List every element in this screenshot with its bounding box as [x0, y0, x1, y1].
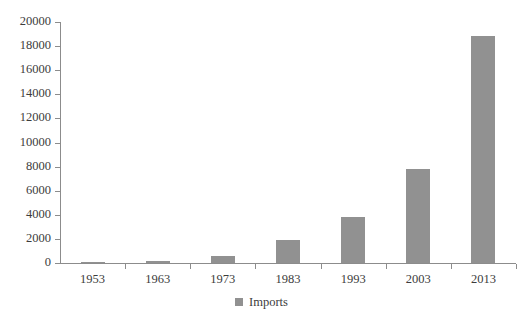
y-axis-tick-label: 12000 — [20, 109, 51, 126]
y-axis-tick-label: 8000 — [26, 158, 51, 175]
y-axis-tick-label: 0 — [45, 254, 51, 271]
bar-2003 — [406, 169, 430, 263]
bar-2013 — [471, 36, 495, 263]
x-axis-tick-mark — [516, 264, 517, 269]
x-axis-tick-label: 1993 — [321, 271, 386, 288]
bar-1963 — [146, 261, 170, 263]
y-axis-tick-label: 18000 — [20, 37, 51, 54]
x-axis-tick-label: 1983 — [255, 271, 320, 288]
x-axis-tick-mark — [125, 264, 126, 269]
y-axis-tick-label: 14000 — [20, 85, 51, 102]
bar-1983 — [276, 240, 300, 263]
y-axis-tick-label: 10000 — [20, 134, 51, 151]
chart-legend: Imports — [0, 294, 523, 310]
x-axis-tick-label: 2013 — [451, 271, 516, 288]
legend-label-imports: Imports — [249, 294, 288, 310]
y-axis-tick-mark — [55, 263, 60, 264]
y-axis-tick-label: 16000 — [20, 61, 51, 78]
x-axis-tick-label: 1963 — [125, 271, 190, 288]
y-axis-tick-label: 2000 — [26, 230, 51, 247]
x-axis-tick-label: 1953 — [60, 271, 125, 288]
bar-chart: 0200040006000800010000120001400016000180… — [0, 0, 523, 322]
bar-1993 — [341, 217, 365, 263]
x-axis-line — [60, 263, 516, 264]
x-axis-tick-label: 2003 — [386, 271, 451, 288]
y-axis-tick-label: 4000 — [26, 206, 51, 223]
x-axis-tick-mark — [451, 264, 452, 269]
bar-1953 — [81, 262, 105, 264]
x-axis-tick-mark — [321, 264, 322, 269]
plot-area — [60, 22, 516, 263]
y-axis-tick-label: 6000 — [26, 182, 51, 199]
x-axis-tick-mark — [255, 264, 256, 269]
y-axis-tick-label: 20000 — [20, 13, 51, 30]
x-axis-tick-mark — [386, 264, 387, 269]
x-axis-tick-mark — [190, 264, 191, 269]
bar-1973 — [211, 256, 235, 263]
legend-swatch-imports — [235, 298, 243, 306]
x-axis-tick-label: 1973 — [190, 271, 255, 288]
